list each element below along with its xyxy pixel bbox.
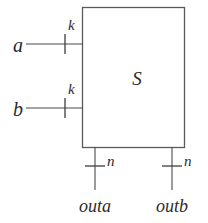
diagram-canvas: S a k b k n outa n outb [0, 0, 208, 223]
bus-width-label-a: k [68, 17, 75, 33]
input-label-a: a [13, 34, 23, 56]
block-diagram: S a k b k n outa n outb [0, 0, 208, 223]
input-label-b: b [13, 98, 23, 120]
output-label-outb: outb [156, 196, 188, 216]
bus-width-label-b: k [68, 81, 75, 97]
bus-width-label-outb: n [184, 153, 192, 169]
bus-width-label-outa: n [107, 153, 115, 169]
output-label-outa: outa [79, 196, 111, 216]
block-label-s: S [132, 68, 142, 89]
